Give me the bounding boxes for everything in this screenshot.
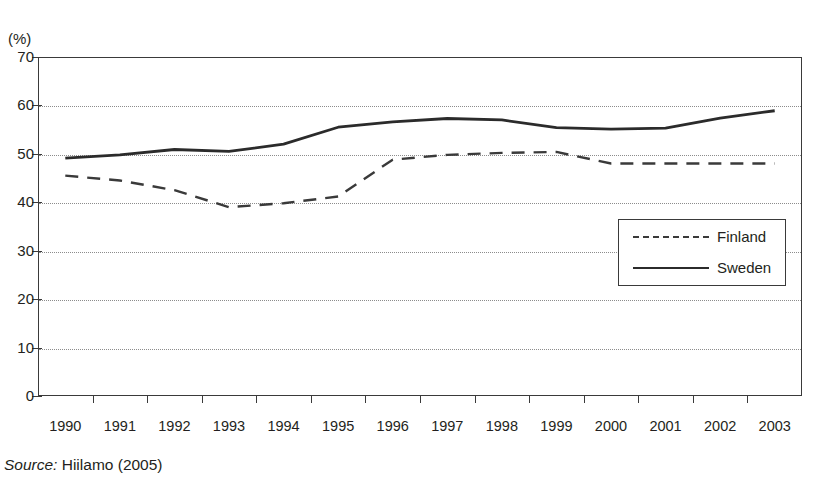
legend-swatch-solid-icon — [633, 267, 709, 269]
legend-label-sweden: Sweden — [717, 259, 771, 276]
source-note: Source: Hiilamo (2005) — [4, 456, 163, 474]
legend-swatch-dashed-icon — [633, 236, 709, 238]
series-line-finland — [65, 152, 774, 207]
legend-item-finland: Finland — [619, 222, 785, 252]
legend-label-finland: Finland — [717, 228, 766, 245]
source-citation: Hiilamo (2005) — [62, 456, 163, 473]
legend-item-sweden: Sweden — [619, 253, 785, 283]
source-prefix: Source: — [4, 456, 57, 473]
chart-legend: Finland Sweden — [618, 219, 786, 286]
series-line-sweden — [65, 111, 774, 158]
chart-figure: (%) 010203040506070 19901991199219931994… — [0, 0, 813, 484]
